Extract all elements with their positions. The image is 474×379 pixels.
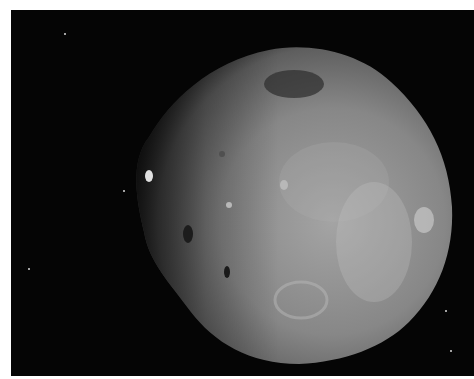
moon	[129, 42, 454, 364]
star	[64, 33, 66, 35]
space-photo: Grayscale photograph of a lumpy, cratere…	[11, 10, 474, 376]
star	[123, 190, 125, 192]
star	[28, 268, 30, 270]
